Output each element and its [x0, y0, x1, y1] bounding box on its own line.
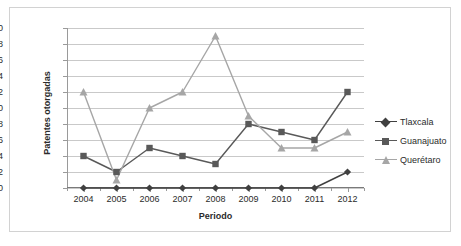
- data-point-marker: [80, 153, 86, 159]
- data-point-marker: [80, 184, 87, 191]
- y-tick-label: 18: [0, 40, 3, 49]
- data-point-marker: [311, 184, 318, 191]
- chart-frame: Patentes otorgadas 02468101214161820 200…: [9, 7, 451, 232]
- data-point-marker: [245, 121, 251, 127]
- data-point-marker: [212, 161, 218, 167]
- y-tick-label: 10: [0, 104, 3, 113]
- data-point-marker: [80, 88, 88, 95]
- y-axis-title: Patentes otorgadas: [40, 48, 54, 178]
- legend-marker-icon: [375, 116, 397, 128]
- y-tick-label: 12: [0, 88, 3, 97]
- data-point-marker: [113, 184, 120, 191]
- y-tick-label: 20: [0, 24, 3, 33]
- plot-area: 02468101214161820 2004200520062007200820…: [67, 28, 364, 188]
- y-tick-label: 4: [0, 152, 3, 161]
- series-line: [84, 36, 348, 180]
- series-layer: [67, 28, 364, 188]
- data-point-marker: [278, 184, 285, 191]
- data-point-marker: [278, 129, 284, 135]
- data-point-marker: [146, 104, 154, 111]
- legend-marker-icon: [375, 135, 397, 147]
- legend-label: Guanajuato: [400, 136, 447, 146]
- legend-label: Querétaro: [400, 155, 441, 165]
- x-tick-mark-minor: [67, 188, 68, 191]
- x-tick-mark-minor: [364, 188, 365, 191]
- data-point-marker: [344, 89, 350, 95]
- data-point-marker: [179, 88, 187, 95]
- data-point-marker: [311, 137, 317, 143]
- data-point-marker: [212, 184, 219, 191]
- data-point-marker: [146, 184, 153, 191]
- legend-marker-icon: [375, 154, 397, 166]
- chart-legend: TlaxcalaGuanajuatoQuerétaro: [375, 112, 461, 169]
- x-tick-mark-minor: [331, 188, 332, 191]
- legend-item-tlaxcala[interactable]: Tlaxcala: [375, 112, 461, 131]
- legend-label: Tlaxcala: [400, 117, 434, 127]
- y-tick-label: 2: [0, 168, 3, 177]
- x-tick-mark: [348, 188, 349, 192]
- legend-item-guanajuato[interactable]: Guanajuato: [375, 131, 461, 150]
- data-point-marker: [344, 168, 351, 175]
- data-point-marker: [245, 112, 253, 119]
- series-line: [84, 92, 348, 172]
- data-point-marker: [113, 176, 121, 183]
- chart-figure: Patentes otorgadas 02468101214161820 200…: [0, 0, 461, 246]
- data-point-marker: [179, 153, 185, 159]
- data-point-marker: [179, 184, 186, 191]
- legend-item-quertaro[interactable]: Querétaro: [375, 150, 461, 169]
- x-tick-label: 2012: [328, 194, 368, 204]
- x-axis-title: Periodo: [67, 211, 364, 221]
- data-point-marker: [146, 145, 152, 151]
- data-point-marker: [245, 184, 252, 191]
- y-tick-label: 14: [0, 72, 3, 81]
- data-point-marker: [113, 169, 119, 175]
- y-tick-label: 8: [0, 120, 3, 129]
- y-tick-label: 0: [0, 184, 3, 193]
- y-tick-label: 16: [0, 56, 3, 65]
- data-point-marker: [212, 32, 220, 39]
- y-tick-label: 6: [0, 136, 3, 145]
- data-point-marker: [344, 128, 352, 135]
